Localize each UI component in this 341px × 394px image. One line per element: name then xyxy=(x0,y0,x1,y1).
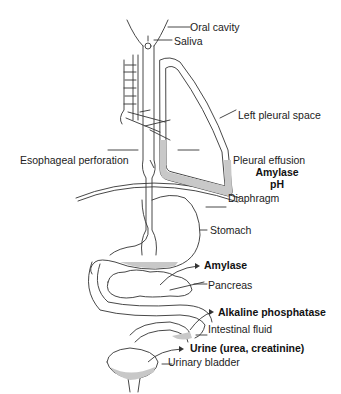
label-oral-cavity: Oral cavity xyxy=(190,21,240,33)
label-pleural-amylase: Amylase xyxy=(247,166,307,178)
label-pleural-effusion: Pleural effusion xyxy=(233,154,305,166)
label-intestinal-fluid: Intestinal fluid xyxy=(208,323,272,335)
stomach-fluid-fill xyxy=(120,262,178,268)
label-pancreas-amylase: Amylase xyxy=(204,259,247,271)
arrow-perforation xyxy=(150,160,154,168)
oral-cavity-shape xyxy=(127,20,168,46)
bladder-urine-fill xyxy=(110,367,155,380)
pancreas-outline xyxy=(107,270,192,298)
label-diaphragm: Diaphragm xyxy=(228,192,279,204)
label-pleural-ph: pH xyxy=(247,178,307,190)
anatomy-illustration xyxy=(0,0,341,394)
esophagus xyxy=(142,46,147,255)
label-esophageal-perforation: Esophageal perforation xyxy=(20,154,129,166)
label-pancreas: Pancreas xyxy=(208,279,252,291)
label-urine: Urine (urea, creatinine) xyxy=(190,342,304,354)
bronchi-icon xyxy=(124,65,170,140)
saliva-droplet-icon xyxy=(145,43,151,49)
label-saliva: Saliva xyxy=(174,35,203,47)
label-urinary-bladder: Urinary bladder xyxy=(168,356,240,368)
intestinal-fluid-fill xyxy=(172,332,192,340)
label-stomach: Stomach xyxy=(210,224,251,236)
diagram-canvas: Oral cavity Saliva Left pleural space Es… xyxy=(0,0,341,394)
label-left-pleural-space: Left pleural space xyxy=(238,109,321,121)
label-alkaline-phosphatase: Alkaline phosphatase xyxy=(218,306,326,318)
